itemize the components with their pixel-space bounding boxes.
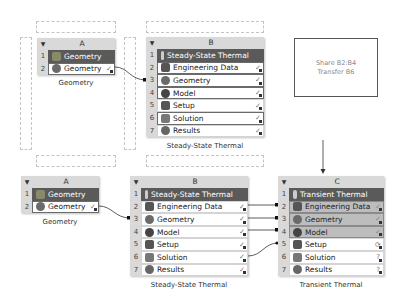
results-icon [145,265,154,274]
caption-top-a[interactable]: Geometry [37,79,115,87]
cell-title[interactable]: Transient Thermal [289,188,384,201]
cell-model-shared[interactable]: Model✓ [289,226,384,239]
note-line-1: Share B2:B4 [295,59,377,68]
cell-setup[interactable]: Setup⟳ [289,238,384,251]
corner-icon [379,246,382,249]
drop-target-bottom-b[interactable] [146,155,264,167]
corner-icon [259,132,262,135]
engineering-data-icon [293,202,302,211]
geometry-system-icon [52,52,61,61]
corner-icon [379,259,382,262]
system-menu-icon[interactable]: ▼ [21,176,33,188]
thermal-icon [161,51,164,60]
system-block-top-steady-state[interactable]: ▼B 1Steady-State Thermal 2Engineering Da… [146,37,264,137]
corner-icon [379,271,382,274]
corner-icon [243,221,246,224]
cell-results[interactable]: Results✓ [157,125,264,138]
corner-icon [243,233,246,236]
geometry-cell-icon [36,202,45,211]
geometry-system-icon [36,190,45,199]
cell-title[interactable]: Geometry [32,188,99,201]
cell-solution[interactable]: Solution✓ [157,112,264,125]
solution-icon [161,114,170,123]
drop-target-left[interactable] [20,37,32,150]
engineering-data-icon [161,63,170,72]
corner-icon [243,246,246,249]
cell-solution[interactable]: Solution✓ [141,251,248,264]
corner-icon [379,233,382,236]
cell-solution[interactable]: Solution? [289,251,384,264]
cell-engineering-data[interactable]: Engineering Data✓ [157,62,264,75]
corner-icon [259,82,262,85]
caption-bottom-a[interactable]: Geometry [21,218,99,226]
cell-results[interactable]: Results✓ [141,264,248,277]
model-icon [145,228,154,237]
caption-bottom-c[interactable]: Transient Thermal [278,281,384,289]
setup-icon [145,240,154,249]
results-icon [293,265,302,274]
annotation-note[interactable]: Share B2:B4 Transfer B6 [294,38,378,97]
corner-icon [379,221,382,224]
drop-target-middle[interactable] [124,37,136,150]
cell-title[interactable]: Geometry [48,50,115,63]
corner-icon [110,70,113,73]
system-block-transient-thermal[interactable]: ▼C 1Transient Thermal 2Engineering Data✓… [278,176,384,276]
setup-icon [293,240,302,249]
drop-target-top-a[interactable] [36,21,116,33]
corner-icon [379,208,382,211]
setup-icon [161,101,170,110]
cell-setup[interactable]: Setup✓ [141,238,248,251]
cell-geometry-shared[interactable]: Geometry✓ [289,213,384,226]
geometry-cell-icon [293,215,302,224]
cell-model[interactable]: Model✓ [157,87,264,100]
cell-title[interactable]: Steady-State Thermal [141,188,248,201]
cell-geometry[interactable]: Geometry✓ [157,74,264,87]
cell-engineering-data[interactable]: Engineering Data✓ [141,201,248,214]
corner-icon [243,208,246,211]
corner-icon [243,259,246,262]
corner-icon [94,208,97,211]
caption-top-b[interactable]: Steady-State Thermal [146,142,264,150]
cell-engineering-data-shared[interactable]: Engineering Data✓ [289,201,384,214]
geometry-cell-icon [52,64,61,73]
model-icon [293,228,302,237]
system-block-bottom-steady-state[interactable]: ▼B 1Steady-State Thermal 2Engineering Da… [130,176,248,276]
results-icon [161,126,170,135]
system-menu-icon[interactable]: ▼ [146,37,158,49]
system-menu-icon[interactable]: ▼ [278,176,290,188]
transient-thermal-icon [293,190,297,199]
solution-icon [293,253,302,262]
corner-icon [259,120,262,123]
geometry-cell-icon [145,215,154,224]
cell-geometry[interactable]: Geometry✓ [32,201,99,214]
corner-icon [259,69,262,72]
cell-model[interactable]: Model✓ [141,226,248,239]
corner-icon [259,94,262,97]
cell-geometry[interactable]: Geometry✓ [141,213,248,226]
cell-results[interactable]: Results? [289,264,384,277]
engineering-data-icon [145,202,154,211]
note-line-2: Transfer B6 [295,68,377,77]
system-menu-icon[interactable]: ▼ [130,176,142,188]
drop-target-top-b[interactable] [146,21,264,33]
cell-setup[interactable]: Setup✓ [157,99,264,112]
corner-icon [259,107,262,110]
cell-title[interactable]: Steady-State Thermal [157,49,264,62]
thermal-icon [145,190,148,199]
geometry-cell-icon [161,76,170,85]
caption-bottom-b[interactable]: Steady-State Thermal [130,281,248,289]
system-block-top-geometry[interactable]: ▼A 1 Geometry 2 Geometry✓ [37,38,115,75]
corner-icon [243,271,246,274]
solution-icon [145,253,154,262]
cell-geometry[interactable]: Geometry✓ [48,63,115,76]
model-icon [161,89,170,98]
system-menu-icon[interactable]: ▼ [37,38,49,50]
system-block-bottom-geometry[interactable]: ▼A 1Geometry 2Geometry✓ [21,176,99,213]
drop-target-bottom-a[interactable] [36,155,116,167]
